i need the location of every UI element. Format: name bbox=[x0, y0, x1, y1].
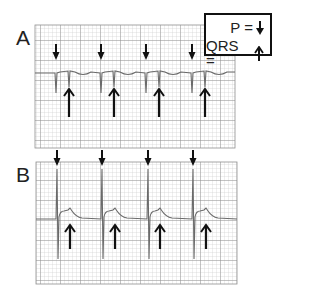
legend-qrs-row: QRS = bbox=[206, 38, 264, 68]
legend-p-label: P = bbox=[230, 20, 253, 35]
legend-box: P = QRS = bbox=[204, 13, 272, 56]
ecg-grid-b bbox=[36, 162, 237, 284]
legend-qrs-label: QRS = bbox=[206, 38, 251, 68]
solid-down-arrow-icon bbox=[256, 21, 264, 35]
open-up-arrow-icon bbox=[254, 46, 264, 61]
legend-p-row: P = bbox=[230, 20, 264, 35]
